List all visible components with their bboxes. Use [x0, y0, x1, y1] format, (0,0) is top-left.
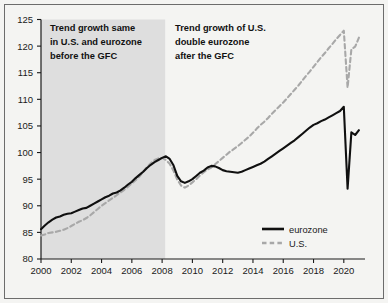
x-tick-label: 2000 [30, 265, 51, 276]
annotation-post-gfc-line3: after the GFC [175, 51, 234, 61]
x-tick-label: 2006 [121, 265, 142, 276]
y-tick-label: 105 [17, 120, 33, 131]
chart-figure: 80859095100105110115120125 2000200220042… [0, 0, 388, 303]
line-chart: 80859095100105110115120125 2000200220042… [0, 0, 388, 303]
y-tick-label: 115 [18, 67, 33, 78]
y-tick-label: 110 [18, 94, 33, 105]
y-tick-label: 85 [22, 227, 33, 238]
y-tick-label: 125 [17, 14, 33, 25]
x-axis-tick-labels: 2000200220042006200820102012201420162018… [30, 265, 354, 276]
chart-legend: eurozone U.S. [262, 225, 328, 249]
annotation-pre-gfc-line1: Trend growth same [50, 23, 135, 33]
annotation-pre-gfc-line2: in U.S. and eurozone [50, 37, 142, 47]
x-tick-label: 2012 [212, 265, 233, 276]
y-tick-label: 80 [22, 253, 33, 264]
annotation-pre-gfc-line3: before the GFC [50, 51, 117, 61]
annotation-post-gfc-line1: Trend growth of U.S. [175, 23, 266, 33]
x-tick-label: 2008 [152, 265, 173, 276]
x-tick-label: 2002 [61, 265, 82, 276]
y-tick-label: 95 [22, 174, 33, 185]
x-tick-label: 2004 [91, 265, 112, 276]
legend-label-eurozone: eurozone [289, 225, 328, 235]
legend-label-us: U.S. [289, 239, 307, 249]
x-tick-label: 2010 [182, 265, 203, 276]
y-tick-label: 100 [17, 147, 33, 158]
y-axis-tick-labels: 80859095100105110115120125 [17, 14, 33, 265]
x-tick-label: 2014 [242, 265, 263, 276]
x-tick-label: 2020 [333, 265, 354, 276]
annotation-post-gfc: Trend growth of U.S. double eurozone aft… [175, 23, 266, 61]
y-tick-label: 120 [17, 41, 33, 52]
x-tick-label: 2018 [303, 265, 324, 276]
annotation-post-gfc-line2: double eurozone [175, 37, 249, 47]
y-tick-label: 90 [22, 200, 33, 211]
x-tick-label: 2016 [273, 265, 294, 276]
